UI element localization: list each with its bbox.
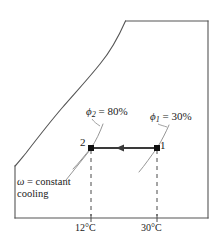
- cooling-process-line: [91, 145, 157, 152]
- phi-30-label: ϕ1 = 30%: [150, 110, 192, 125]
- omega-constant-label: ω = constantcooling: [17, 176, 71, 200]
- phi-80-value: = 80%: [96, 105, 128, 117]
- temperature-label-30c: 30°C: [141, 222, 162, 234]
- state-point-1-label: 1: [160, 139, 166, 152]
- phi-80-label: ϕ2 = 80%: [86, 105, 128, 120]
- omega-constant-text: = constant: [24, 176, 70, 187]
- process-arrowhead: [116, 145, 124, 152]
- temperature-label-12c: 12°C: [75, 222, 96, 234]
- state-point-2-label: 2: [80, 136, 86, 149]
- psychrometric-chart-figure: ϕ2 = 80% ϕ1 = 30% 2 1 ω = constantcoolin…: [0, 0, 224, 246]
- phi-30-value: = 30%: [160, 110, 192, 122]
- phi-80-leader-line: [92, 119, 100, 126]
- temperature-droplines: [91, 150, 157, 216]
- cooling-text: cooling: [17, 188, 71, 200]
- state-point-2-marker: [88, 145, 94, 151]
- saturation-curve: [15, 21, 126, 166]
